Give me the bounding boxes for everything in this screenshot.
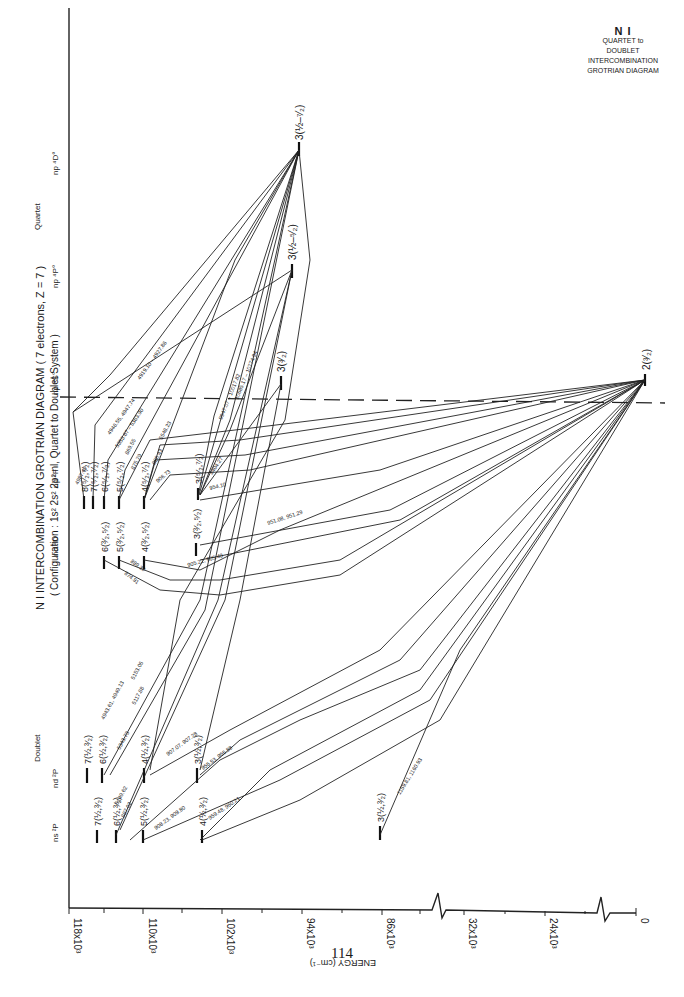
- label-nd2D: nd ²D: [51, 536, 60, 556]
- label-doublet: Doublet: [33, 734, 42, 762]
- level-ns2P-4: 4(½,³⁄₂): [198, 797, 208, 826]
- svg-text:908.23, 909.80: 908.23, 909.80: [153, 804, 186, 830]
- ionization-dashed-line: [60, 397, 665, 403]
- level-np4S-3-label: 3(³⁄₂): [276, 351, 287, 372]
- svg-text:1159.81, 1160.93: 1159.81, 1160.93: [396, 757, 423, 796]
- svg-text:5343.73: 5343.73: [116, 730, 131, 750]
- svg-text:951.08, 951.29: 951.08, 951.29: [266, 509, 303, 526]
- level-nd2P-7: 7(½,³⁄₂): [83, 735, 93, 764]
- level-nd2D-3: 3(³⁄₂,⁵⁄₂): [192, 509, 202, 539]
- svg-text:886.43: 886.43: [151, 448, 164, 466]
- label-np4P: np ⁴P°: [51, 265, 60, 288]
- svg-text:5153.05: 5153.05: [130, 660, 145, 680]
- transition-lines: [73, 150, 645, 840]
- label-quartet: Quartet: [33, 203, 42, 230]
- label-nd2P: nd ²P: [51, 769, 60, 788]
- label-ns2P: ns ²P: [51, 823, 60, 842]
- energy-axis: [69, 893, 636, 921]
- level-nd2D-4: 4(³⁄₂,⁵⁄₂): [140, 522, 150, 552]
- page-number: 114: [0, 945, 684, 962]
- main-title-line1: N I INTERCOMBINATION GROTRIAN DIAGRAM ( …: [34, 266, 46, 610]
- level-ns2P-7: 7(½,³⁄₂): [93, 797, 103, 826]
- svg-text:905.22, 905.40: 905.22, 905.40: [187, 552, 224, 568]
- svg-text:874.91: 874.91: [123, 570, 140, 585]
- level-nd2D-6: 6(³⁄₂,⁵⁄₂): [100, 522, 110, 552]
- svg-text:959.48, 960.21: 959.48, 960.21: [207, 795, 241, 820]
- level-ground-label: 2(³⁄₂): [641, 349, 652, 370]
- svg-text:4946.55, 4947.74: 4946.55, 4947.74: [106, 397, 136, 435]
- level-np4P-3-label: 3(½–⁵⁄₂): [287, 224, 298, 260]
- level-nd2D-5: 5(³⁄₂,⁵⁄₂): [115, 522, 125, 552]
- level-np4D-3-label: 3(½–⁷⁄₂): [294, 105, 305, 140]
- svg-text:5117.88: 5117.88: [131, 685, 145, 705]
- label-nd2F: nd ²F: [51, 469, 60, 488]
- level-ns2P-3: 3(½,³⁄₂): [376, 793, 386, 822]
- svg-text:4919.10 – 4927.86: 4919.10 – 4927.86: [136, 340, 168, 381]
- ns2P-levels: [97, 826, 380, 843]
- label-np4S: np ⁴S°: [51, 372, 60, 395]
- grotrian-diagram: N I INTERCOMBINATION GROTRIAN DIAGRAM ( …: [0, 0, 684, 997]
- label-np4D: np ⁴D°: [51, 151, 60, 175]
- level-ns2P-5: 5(½,³⁄₂): [139, 797, 149, 826]
- svg-text:4943.61, 4949.13: 4943.61, 4949.13: [100, 680, 125, 721]
- tick-0: 0: [639, 918, 650, 924]
- level-nd2P-6: 6(½,³⁄₂): [98, 735, 108, 764]
